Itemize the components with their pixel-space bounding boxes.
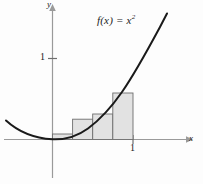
riemann-bar-3 xyxy=(93,114,113,140)
figure-riemann-sum-parabola: y x 1 1 f(x) = x2 xyxy=(0,0,203,184)
y-axis-label: y xyxy=(47,0,51,9)
function-label-exponent: 2 xyxy=(132,13,136,21)
y-tick-label-1: 1 xyxy=(40,52,45,62)
x-tick-label-1: 1 xyxy=(130,143,135,153)
y-axis xyxy=(49,4,56,178)
x-axis-label: x xyxy=(189,134,193,143)
function-label-text: f(x) = x xyxy=(97,14,132,26)
riemann-rectangles xyxy=(53,93,134,140)
plot-area xyxy=(0,0,203,184)
function-label: f(x) = x2 xyxy=(97,14,135,26)
